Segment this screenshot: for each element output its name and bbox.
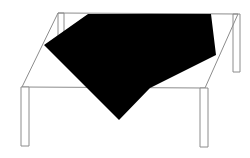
leg-front-right xyxy=(200,88,208,147)
drawing-canvas xyxy=(0,0,250,158)
leg-front-left xyxy=(21,87,29,146)
table-illustration xyxy=(0,0,250,158)
